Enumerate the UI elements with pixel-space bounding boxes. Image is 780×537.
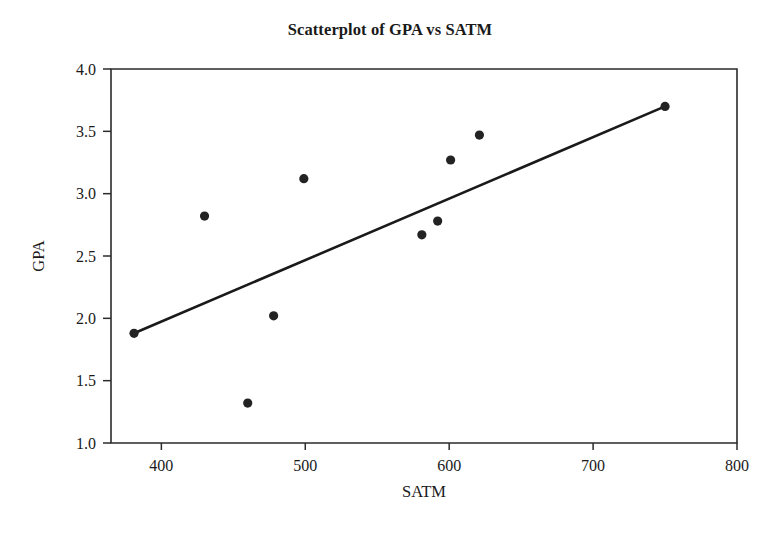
data-point: [417, 230, 426, 239]
x-tick-label: 700: [581, 457, 605, 474]
plot-canvas: 400500600700800 1.01.52.02.53.03.54.0 SA…: [0, 0, 780, 537]
y-tick-label: 1.5: [76, 372, 96, 389]
x-axis-ticks: [161, 443, 737, 450]
data-points-group: [129, 102, 669, 408]
data-point: [200, 212, 209, 221]
data-point: [243, 399, 252, 408]
data-point: [433, 216, 442, 225]
x-tick-label: 400: [149, 457, 173, 474]
y-axis-tick-labels: 1.01.52.02.53.03.54.0: [76, 61, 96, 452]
scatterplot-figure: Scatterplot of GPA vs SATM 4005006007008…: [0, 0, 780, 537]
x-tick-label: 800: [725, 457, 749, 474]
x-tick-label: 500: [293, 457, 317, 474]
x-tick-label: 600: [437, 457, 461, 474]
data-point: [129, 329, 138, 338]
y-tick-label: 2.0: [76, 310, 96, 327]
y-tick-label: 1.0: [76, 435, 96, 452]
x-axis-title: SATM: [402, 482, 446, 501]
data-point: [475, 130, 484, 139]
axes-frame: [111, 69, 737, 443]
data-point: [446, 155, 455, 164]
regression-line-group: [134, 106, 665, 333]
data-point: [269, 311, 278, 320]
y-tick-label: 3.0: [76, 185, 96, 202]
y-axis-title: GPA: [29, 240, 48, 272]
x-axis-tick-labels: 400500600700800: [149, 457, 749, 474]
regression-line: [134, 106, 665, 333]
y-tick-label: 2.5: [76, 248, 96, 265]
y-tick-label: 4.0: [76, 61, 96, 78]
plot-frame: [111, 69, 737, 443]
data-point: [660, 102, 669, 111]
y-tick-label: 3.5: [76, 123, 96, 140]
y-axis-ticks: [103, 69, 111, 443]
data-point: [299, 174, 308, 183]
